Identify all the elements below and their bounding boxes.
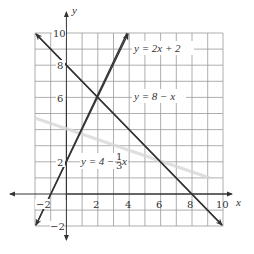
y-tick-6: 6: [57, 93, 63, 104]
chart: y = 2x + 2 y = 8 − x y = 4 − 1 3 x y x 1…: [0, 0, 254, 254]
x-axis-label: x: [235, 196, 241, 208]
label-eq-8-minus-x: y = 8 − x: [133, 90, 175, 102]
y-tick-2: 2: [57, 157, 63, 168]
label-eq-4-minus-third-x: y = 4 −: [80, 155, 114, 167]
x-tick-4: 4: [125, 199, 131, 210]
label-eq-2x-plus-2: y = 2x + 2: [133, 42, 181, 54]
x-tick-neg2: −2: [36, 199, 51, 210]
y-tick-neg2: −2: [50, 221, 65, 232]
x-tick-10: 10: [216, 199, 229, 210]
y-tick-10: 10: [53, 28, 66, 39]
y-axis-label: y: [71, 4, 77, 16]
label-eq3-x: x: [121, 155, 127, 167]
x-tick-8: 8: [187, 199, 193, 210]
x-tick-6: 6: [156, 199, 162, 210]
x-tick-2: 2: [93, 199, 99, 210]
y-tick-8: 8: [57, 60, 63, 71]
